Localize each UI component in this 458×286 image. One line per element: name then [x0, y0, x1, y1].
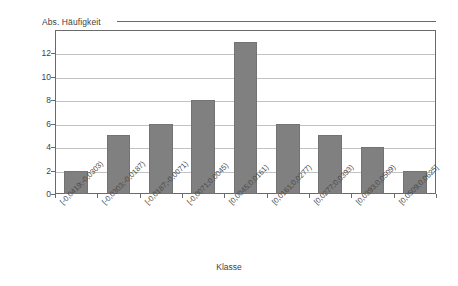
y-axis-title: Abs. Häufigkeit	[42, 17, 101, 27]
x-tick-mark	[436, 194, 437, 198]
x-tick-mark	[394, 194, 395, 198]
x-tick-mark	[351, 194, 352, 198]
x-tick-mark	[182, 194, 183, 198]
y-axis-ticks: 024681012	[33, 30, 51, 194]
bar[interactable]	[234, 42, 258, 194]
y-tick-label: 12	[42, 48, 51, 58]
y-tick-mark	[51, 100, 55, 101]
y-tick-label: 10	[42, 72, 51, 82]
x-tick-mark	[267, 194, 268, 198]
y-tick-mark	[51, 194, 55, 195]
histogram-chart: Abs. Häufigkeit 024681012 [-0,0419;-0,03…	[0, 0, 458, 286]
x-tick-mark	[97, 194, 98, 198]
y-tick-mark	[51, 53, 55, 54]
y-tick-mark	[51, 147, 55, 148]
x-tick-mark	[55, 194, 56, 198]
x-tick-mark	[140, 194, 141, 198]
y-tick-mark	[51, 171, 55, 172]
x-tick-mark	[309, 194, 310, 198]
title-rule	[117, 21, 436, 22]
x-tick-mark	[224, 194, 225, 198]
bars-group	[55, 30, 436, 194]
y-tick-mark	[51, 124, 55, 125]
y-tick-mark	[51, 77, 55, 78]
x-axis-title: Klasse	[0, 262, 458, 272]
